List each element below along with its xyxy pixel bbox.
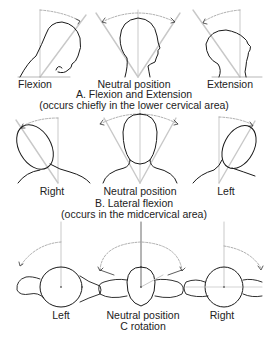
lateral-neutral-head [100,110,178,183]
neutral-head-profile [96,10,180,77]
section-a-subtitle: (occurs chiefly in the lower cervical ar… [39,100,229,111]
label-right-lateral: Right [40,186,65,197]
section-c-title: C rotation [120,321,166,332]
extension-head-profile [193,10,262,77]
rotation-neutral-head-topview [98,222,185,306]
rotation-right-head-topview [184,222,263,307]
label-right-rotation: Right [210,310,235,321]
section-b-subtitle: (occurs in the midcervical area) [61,209,207,220]
label-left-lateral: Left [217,186,235,197]
cervical-motion-diagram [0,0,268,337]
label-left-rotation: Left [52,310,70,321]
rotation-left-head-topview [17,222,101,307]
label-flexion: Flexion [18,79,52,90]
label-extension: Extension [207,79,253,90]
lateral-flexion-left-head [193,117,263,183]
flexion-head-profile [18,10,86,77]
lateral-flexion-right-head [9,118,90,183]
label-neutral-b: Neutral position [104,186,177,197]
